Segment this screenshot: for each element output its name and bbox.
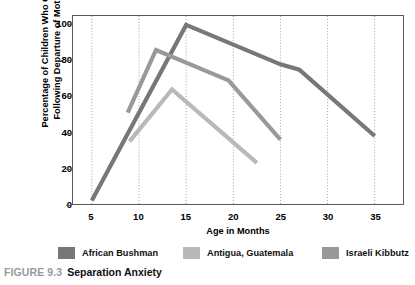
legend-swatch-icon [322, 247, 339, 259]
legend-item-israeli-kibbutz[interactable]: Israeli Kibbutz [322, 245, 409, 261]
x-axis-title: Age in Months [72, 226, 404, 236]
series-line-antigua-guatemala [130, 89, 257, 162]
y-axis: Percentage of Children Who Cried Followi… [30, 0, 72, 285]
x-tick-label-35: 35 [361, 212, 391, 222]
legend-label: Antigua, Guatemala [207, 248, 293, 258]
x-tick-label-5: 5 [76, 212, 106, 222]
x-axis: 5101520253035 [0, 205, 415, 225]
legend-label: African Bushman [82, 248, 158, 258]
figure-caption: FIGURE 9.3 Separation Anxiety [4, 266, 409, 278]
x-tick-label-10: 10 [123, 212, 153, 222]
figure-container: Percentage of Children Who Cried Followi… [0, 0, 415, 285]
x-tick-label-20: 20 [218, 212, 248, 222]
plot-svg [73, 16, 403, 204]
caption-title: Separation Anxiety [67, 266, 162, 278]
legend-item-african-bushman[interactable]: African Bushman [58, 245, 158, 261]
x-tick-label-15: 15 [171, 212, 201, 222]
legend-label: Israeli Kibbutz [346, 248, 409, 258]
x-tick-label-25: 25 [266, 212, 296, 222]
chart-legend: African BushmanAntigua, GuatemalaIsraeli… [58, 245, 410, 261]
x-tick-label-30: 30 [313, 212, 343, 222]
legend-swatch-icon [58, 247, 75, 259]
legend-item-antigua-guatemala[interactable]: Antigua, Guatemala [183, 245, 293, 261]
legend-swatch-icon [183, 247, 200, 259]
plot-area [72, 15, 404, 205]
caption-figure-number: FIGURE 9.3 [4, 266, 62, 278]
